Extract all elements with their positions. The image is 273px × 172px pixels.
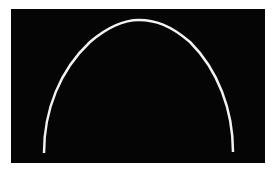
arch-curve [44,20,233,153]
arch-curve-graphic [0,0,273,172]
